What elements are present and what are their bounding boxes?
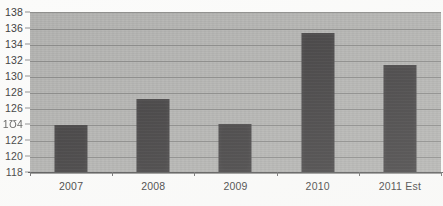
bars-group xyxy=(30,13,441,173)
bar-slot xyxy=(277,13,359,173)
bar-slot xyxy=(112,13,194,173)
x-axis-tick-label: 2010 xyxy=(306,180,330,192)
x-axis-tick-label: 2011 Est xyxy=(379,180,421,192)
x-axis-tick-mark xyxy=(441,172,442,176)
plot-area xyxy=(30,12,441,173)
bar-2010 xyxy=(301,33,334,173)
y-axis-tick-label: 128 xyxy=(5,86,23,98)
x-axis-tick-mark xyxy=(277,172,278,176)
y-axis: 1381361341321301281261Ʊ4122120118 xyxy=(0,0,30,206)
bar-2011-est xyxy=(383,65,416,173)
x-axis-tick-label: 2009 xyxy=(223,180,247,192)
y-axis-tick-label: 118 xyxy=(6,166,23,178)
bar-2007 xyxy=(55,125,88,173)
bar-2008 xyxy=(137,99,170,173)
bar-slot xyxy=(359,13,441,173)
x-axis-line xyxy=(28,172,443,173)
bar-chart: 1381361341321301281261Ʊ4122120118 200720… xyxy=(0,0,443,206)
x-axis-tick-label: 2007 xyxy=(59,180,83,192)
x-axis-tick-mark xyxy=(359,172,360,176)
bar-slot xyxy=(194,13,276,173)
x-axis-tick-mark xyxy=(30,172,31,176)
y-axis-tick-label: 120 xyxy=(5,150,23,162)
y-axis-tick-label: 122 xyxy=(5,134,23,146)
y-axis-tick-label: 130 xyxy=(5,70,23,82)
y-axis-tick-label: 132 xyxy=(5,54,23,66)
x-axis-tick-mark xyxy=(112,172,113,176)
y-axis-tick-label: 138 xyxy=(5,6,23,18)
x-axis-tick-label: 2008 xyxy=(141,180,165,192)
y-axis-tick-label: 136 xyxy=(5,22,23,34)
bar-slot xyxy=(30,13,112,173)
x-axis-tick-mark xyxy=(194,172,195,176)
y-axis-tick-label: 1Ʊ4 xyxy=(3,118,23,130)
y-axis-tick-label: 134 xyxy=(5,38,23,50)
y-axis-tick-label: 126 xyxy=(5,102,23,114)
bar-2009 xyxy=(219,124,252,173)
